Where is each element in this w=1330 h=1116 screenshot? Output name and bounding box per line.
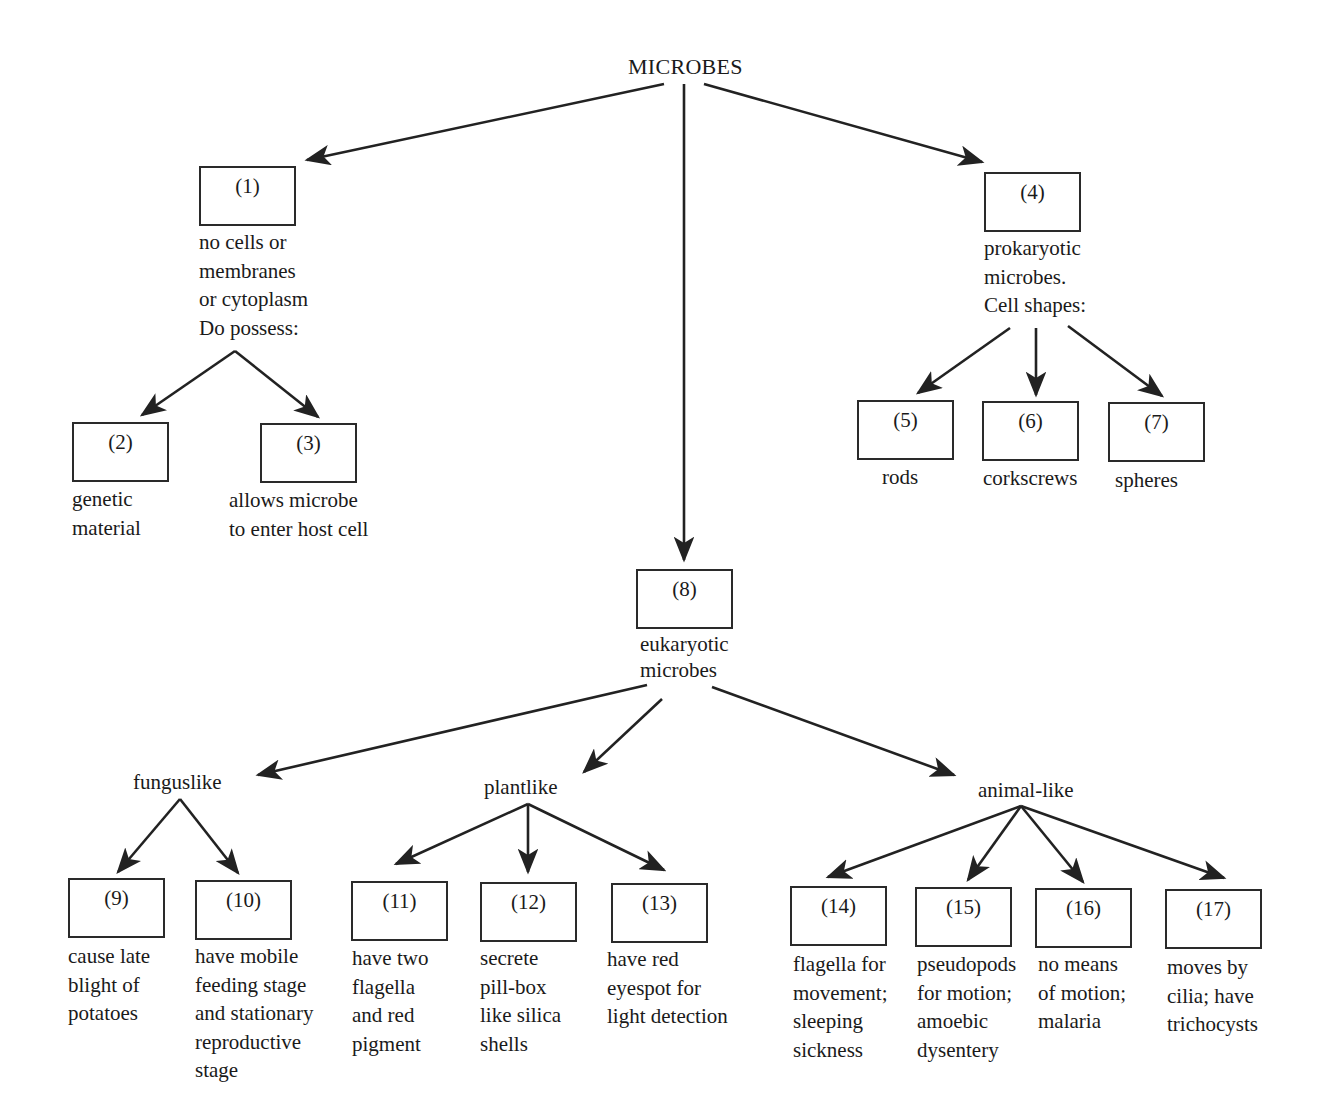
label-line: pigment [352, 1030, 428, 1059]
node-box-5: (5) [857, 400, 954, 460]
node-box-6: (6) [982, 401, 1079, 461]
node-box-17: (17) [1165, 889, 1262, 949]
label-line: like silica [480, 1001, 561, 1030]
label-line: malaria [1038, 1007, 1126, 1036]
label-line: sickness [793, 1036, 887, 1065]
label-line: to enter host cell [229, 515, 368, 544]
node-label-13: have red eyespot for light detection [607, 945, 728, 1031]
label-line: no cells or [199, 228, 308, 257]
label-line: of motion; [1038, 979, 1126, 1008]
label-line: material [72, 514, 141, 543]
node-box-10: (10) [195, 880, 292, 940]
node-number-12: (12) [482, 890, 575, 915]
label-line: microbes. [984, 263, 1086, 292]
label-line: trichocysts [1167, 1010, 1258, 1039]
node-box-11: (11) [351, 881, 448, 941]
label-line: cause late [68, 942, 150, 971]
label-line: or cytoplasm [199, 285, 308, 314]
label-line: eukaryotic [640, 631, 729, 657]
label-line: allows microbe [229, 486, 368, 515]
node-label-6: corkscrews [983, 464, 1077, 493]
label-line: and stationary [195, 999, 313, 1028]
node-label-9: cause late blight of potatoes [68, 942, 150, 1028]
label-line: blight of [68, 971, 150, 1000]
node-number-16: (16) [1037, 896, 1130, 921]
node-box-7: (7) [1108, 402, 1205, 462]
label-line: pill-box [480, 973, 561, 1002]
node-number-4: (4) [986, 180, 1079, 205]
category-animal-like: animal-like [978, 778, 1074, 803]
label-line: dysentery [917, 1036, 1016, 1065]
node-label-7: spheres [1115, 466, 1178, 495]
node-label-17: moves by cilia; have trichocysts [1167, 953, 1258, 1039]
node-box-3: (3) [260, 423, 357, 483]
node-number-17: (17) [1167, 897, 1260, 922]
label-line: no means [1038, 950, 1126, 979]
node-box-8: (8) [636, 569, 733, 629]
label-line: flagella for [793, 950, 887, 979]
node-number-10: (10) [197, 888, 290, 913]
label-line: Do possess: [199, 314, 308, 343]
category-funguslike: funguslike [133, 770, 222, 795]
node-label-8: eukaryotic microbes [640, 631, 729, 683]
node-number-11: (11) [353, 889, 446, 914]
label-line: genetic [72, 485, 141, 514]
node-label-5: rods [882, 463, 918, 492]
node-box-4: (4) [984, 172, 1081, 232]
node-number-2: (2) [74, 430, 167, 455]
label-line: have two [352, 944, 428, 973]
node-label-11: have two flagella and red pigment [352, 944, 428, 1058]
label-line: membranes [199, 257, 308, 286]
node-number-3: (3) [262, 431, 355, 456]
node-label-14: flagella for movement; sleeping sickness [793, 950, 887, 1064]
node-number-7: (7) [1110, 410, 1203, 435]
label-line: amoebic [917, 1007, 1016, 1036]
node-number-9: (9) [70, 886, 163, 911]
category-plantlike: plantlike [484, 775, 557, 800]
label-line: shells [480, 1030, 561, 1059]
node-number-1: (1) [201, 174, 294, 199]
node-box-14: (14) [790, 886, 887, 946]
label-line: light detection [607, 1002, 728, 1031]
node-box-1: (1) [199, 166, 296, 226]
label-line: corkscrews [983, 464, 1077, 493]
label-line: pseudopods [917, 950, 1016, 979]
label-line: have red [607, 945, 728, 974]
node-box-2: (2) [72, 422, 169, 482]
label-line: reproductive [195, 1028, 313, 1057]
node-label-3: allows microbe to enter host cell [229, 486, 368, 543]
node-label-4: prokaryotic microbes. Cell shapes: [984, 234, 1086, 320]
label-line: Cell shapes: [984, 291, 1086, 320]
label-line: moves by [1167, 953, 1258, 982]
label-line: eyespot for [607, 974, 728, 1003]
node-number-6: (6) [984, 409, 1077, 434]
node-label-10: have mobile feeding stage and stationary… [195, 942, 313, 1085]
label-line: movement; [793, 979, 887, 1008]
label-line: and red [352, 1001, 428, 1030]
label-line: have mobile [195, 942, 313, 971]
label-line: sleeping [793, 1007, 887, 1036]
label-line: flagella [352, 973, 428, 1002]
label-line: rods [882, 463, 918, 492]
label-line: prokaryotic [984, 234, 1086, 263]
node-number-15: (15) [917, 895, 1010, 920]
node-number-13: (13) [613, 891, 706, 916]
node-box-16: (16) [1035, 888, 1132, 948]
root-title: MICROBES [628, 54, 743, 80]
node-box-13: (13) [611, 883, 708, 943]
label-line: spheres [1115, 466, 1178, 495]
node-box-9: (9) [68, 878, 165, 938]
node-label-15: pseudopods for motion; amoebic dysentery [917, 950, 1016, 1064]
node-label-1: no cells or membranes or cytoplasm Do po… [199, 228, 308, 342]
label-line: stage [195, 1056, 313, 1085]
node-label-2: genetic material [72, 485, 141, 542]
node-box-15: (15) [915, 887, 1012, 947]
label-line: cilia; have [1167, 982, 1258, 1011]
label-line: for motion; [917, 979, 1016, 1008]
label-line: microbes [640, 657, 729, 683]
label-line: secrete [480, 944, 561, 973]
node-number-14: (14) [792, 894, 885, 919]
node-label-12: secrete pill-box like silica shells [480, 944, 561, 1058]
node-label-16: no means of motion; malaria [1038, 950, 1126, 1036]
node-box-12: (12) [480, 882, 577, 942]
